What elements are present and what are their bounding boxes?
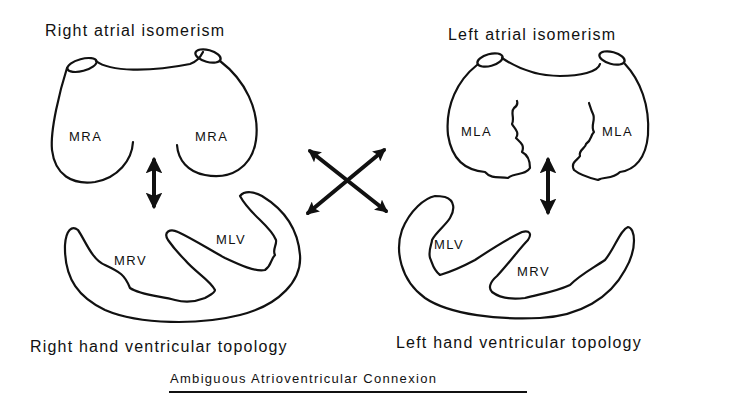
mla-label-left: MLA bbox=[461, 124, 492, 139]
right-hand-topology-title: Right hand ventricular topology bbox=[30, 338, 288, 356]
mrv-label-right-diagram: MRV bbox=[517, 264, 550, 279]
figure-caption: Ambiguous Atrioventricular Connexion bbox=[170, 371, 437, 386]
caption-underline bbox=[169, 391, 527, 393]
left-atrial-isomerism-title: Left atrial isomerism bbox=[448, 26, 616, 44]
mla-label-right: MLA bbox=[602, 124, 633, 139]
mra-label-left: MRA bbox=[69, 129, 102, 144]
mra-label-right: MRA bbox=[195, 129, 228, 144]
left-hand-ventricles bbox=[399, 196, 634, 318]
left-hand-topology-title: Left hand ventricular topology bbox=[396, 334, 642, 352]
crossed-double-arrows-icon bbox=[308, 150, 386, 213]
right-hand-ventricles bbox=[65, 192, 300, 322]
right-atrial-isomerism-title: Right atrial isomerism bbox=[45, 22, 225, 40]
diagram-canvas: Right atrial isomerism Left atrial isome… bbox=[0, 0, 736, 403]
mlv-label-right-diagram: MLV bbox=[434, 237, 464, 252]
mrv-label-left-diagram: MRV bbox=[114, 253, 147, 268]
mlv-label-left-diagram: MLV bbox=[216, 232, 246, 247]
